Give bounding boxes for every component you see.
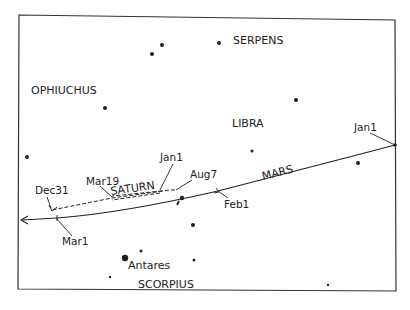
constellation-label-scorpius: SCORPIUS: [138, 278, 194, 291]
date-label-saturn-mar19: Mar19: [86, 175, 119, 187]
planet-label-mars: MARS: [261, 163, 295, 183]
star-dot: [191, 223, 195, 227]
leader-mars-mar1: [56, 218, 72, 236]
constellation-label-ophiuchus: OPHIUCHUS: [31, 84, 97, 97]
date-label-mars-jan1: Jan1: [353, 121, 377, 133]
star-dot: [140, 250, 143, 253]
star-dot: [193, 259, 196, 262]
date-label-saturn-dec31: Dec31: [35, 184, 69, 196]
date-label-saturn-aug7: Aug7: [190, 168, 217, 180]
star-dot: [109, 276, 111, 278]
constellation-label-libra: LIBRA: [232, 117, 264, 130]
chart-frame: [18, 15, 396, 291]
star-dot: [356, 161, 360, 165]
star-dot: [294, 98, 298, 102]
mars-jan1-marker: [393, 143, 397, 147]
star-chart: SERPENS OPHIUCHUS LIBRA SCORPIUS Antares…: [0, 0, 410, 310]
star-dot: [150, 52, 154, 56]
date-label-saturn-jan1: Jan1: [159, 151, 183, 163]
leader-saturn-dec31: [47, 197, 51, 208]
stars: [25, 41, 360, 286]
constellation-label-serpens: SERPENS: [233, 34, 283, 47]
star-dot: [103, 106, 107, 110]
star-label-antares: Antares: [128, 259, 171, 272]
leader-mars-jan1: [370, 133, 395, 145]
star-dot: [217, 41, 221, 45]
star-dot: [25, 155, 29, 159]
star-dot: [327, 284, 329, 286]
date-label-mars-mar1: Mar1: [62, 235, 89, 247]
saturn-small-marker: [177, 201, 179, 205]
leader-saturn-aug7: [176, 180, 192, 190]
star-dot: [251, 150, 254, 153]
star-dot: [160, 43, 164, 47]
date-label-mars-feb1: Feb1: [224, 198, 249, 210]
mars-path: [22, 145, 395, 220]
leader-saturn-jan1: [160, 164, 173, 190]
